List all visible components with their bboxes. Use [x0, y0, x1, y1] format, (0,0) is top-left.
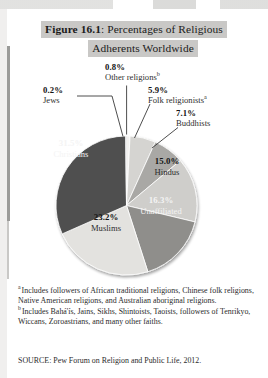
- callout-other-religions-value: 0.8%: [105, 62, 160, 72]
- slice-label-muslims: 23.2% Muslims: [74, 212, 138, 233]
- figure-title-line-2: Adherents Worldwide: [88, 40, 198, 57]
- pie-chart: 0.8% Other religionsb 0.2% Jews 5.9% Fol…: [0, 60, 268, 285]
- source-note: SOURCE: Pew Forum on Religion and Public…: [18, 356, 256, 366]
- callout-buddhists: 7.1% Buddhists: [176, 108, 210, 129]
- slice-label-christians: 31.5% Christians: [36, 138, 106, 159]
- scan-artifact-top: [0, 0, 268, 9]
- slice-label-hindus: 15.0% Hindus: [138, 156, 196, 177]
- callout-folk-religionists: 5.9% Folk religionistsa: [148, 85, 207, 106]
- slice-label-christians-name: Christians: [36, 149, 106, 160]
- leader-line-jews: [77, 96, 123, 137]
- slice-label-christians-value: 31.5%: [36, 138, 106, 149]
- callout-jews-label: Jews: [43, 95, 63, 105]
- slice-label-unaffiliated: 16.3% Unaffiliated: [130, 195, 192, 216]
- footnote-b-text: Includes Bahá'ís, Jains, Sikhs, Shintois…: [18, 307, 250, 326]
- slice-label-unaffiliated-value: 16.3%: [130, 195, 192, 206]
- footnote-ref-a: a: [204, 94, 207, 101]
- footnote-a-marker: a: [18, 284, 21, 290]
- figure-title: Figure 16.1: Percentages of Religious Ad…: [12, 19, 256, 57]
- callout-buddhists-value: 7.1%: [176, 108, 210, 118]
- slice-label-muslims-value: 23.2%: [74, 212, 138, 223]
- slice-label-hindus-value: 15.0%: [138, 156, 196, 167]
- slice-label-hindus-name: Hindus: [138, 167, 196, 178]
- callout-jews-value: 0.2%: [43, 85, 63, 95]
- footnote-ref-b: b: [157, 71, 160, 78]
- leader-line-folk-religionists: [135, 104, 151, 138]
- callout-folk-religionists-value: 5.9%: [148, 85, 207, 95]
- callout-other-religions: 0.8% Other religionsb: [105, 62, 160, 83]
- pie-chart-svg: [0, 60, 268, 285]
- figure-number: Figure 16.1: [45, 23, 101, 35]
- slice-label-muslims-name: Muslims: [74, 223, 138, 234]
- footnote-a-text: Includes followers of African traditiona…: [18, 286, 254, 305]
- slice-label-unaffiliated-name: Unaffiliated: [130, 206, 192, 217]
- footnote-b-marker: b: [18, 305, 21, 311]
- callout-folk-religionists-label: Folk religionistsa: [148, 95, 207, 105]
- footnote-b: bIncludes Bahá'ís, Jains, Sikhs, Shintoi…: [18, 307, 254, 328]
- figure-page: Figure 16.1: Percentages of Religious Ad…: [0, 0, 268, 378]
- figure-title-text: : Percentages of Religious: [101, 23, 223, 35]
- footnotes: aIncludes followers of African tradition…: [18, 286, 254, 327]
- footnote-a: aIncludes followers of African tradition…: [18, 286, 254, 307]
- callout-other-religions-label: Other religionsb: [105, 72, 160, 82]
- figure-title-line-1: Figure 16.1: Percentages of Religious: [41, 21, 227, 38]
- leader-line-buddhists: [152, 128, 178, 149]
- callout-buddhists-label: Buddhists: [176, 118, 210, 128]
- callout-jews: 0.2% Jews: [43, 85, 63, 106]
